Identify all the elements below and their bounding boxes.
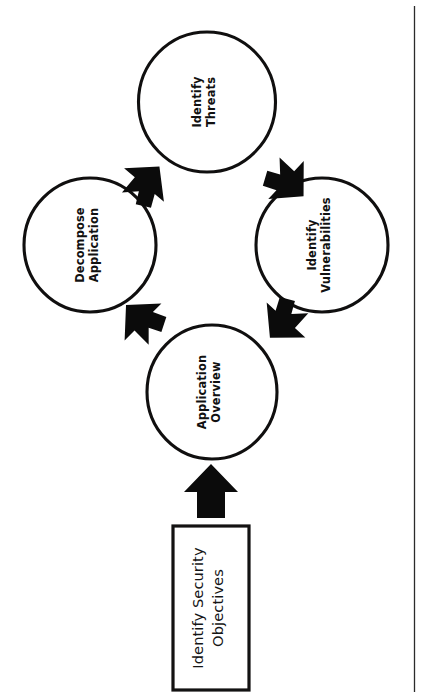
identify-security-objectives-label-line2: Objectives	[209, 569, 226, 647]
decompose-application-label-line1: Decompose	[73, 207, 87, 283]
node-decompose-application[interactable]: Decompose Application	[24, 178, 156, 312]
identify-vulnerabilities-label-line1: Identify	[305, 219, 319, 271]
node-identify-threats[interactable]: Identify Threats	[139, 32, 276, 172]
identify-vulnerabilities-label-line2: Vulnerabilities	[319, 197, 333, 293]
identify-threats-label-line2: Threats	[204, 77, 218, 127]
application-overview-label-line1: Application	[195, 355, 209, 429]
application-overview-label-line2: Overview	[209, 361, 223, 423]
identify-threats-label-line1: Identify	[190, 76, 204, 128]
arrow-objectives-to-overview-icon	[184, 464, 238, 518]
node-application-overview[interactable]: Application Overview	[147, 325, 277, 459]
identify-security-objectives-label-line1: Identify Security	[189, 547, 206, 669]
node-identify-security-objectives[interactable]: Identify Security Objectives	[173, 526, 249, 690]
threat-modeling-diagram: Identify Threats Identify Vulnerabilitie…	[0, 0, 432, 698]
decompose-application-label-line2: Application	[87, 208, 101, 282]
straight-up-arrow-icon	[184, 464, 238, 518]
diagram-canvas: Identify Threats Identify Vulnerabilitie…	[0, 0, 432, 698]
